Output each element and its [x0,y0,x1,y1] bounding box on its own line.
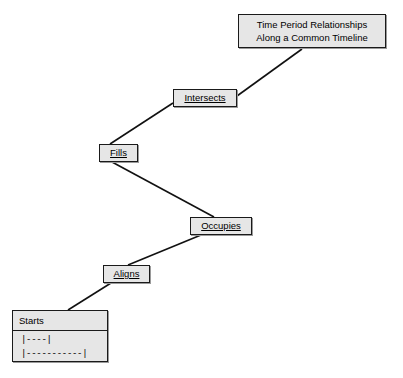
node-fills-label: Fills [110,147,127,159]
timeline-bar-short: |----| [21,335,107,346]
starts-body: |----| |-----------| [13,331,107,361]
node-intersects-label: Intersects [184,92,225,104]
node-aligns[interactable]: Aligns [103,265,150,283]
node-aligns-label: Aligns [114,268,140,280]
edge-fills-to-occupies [112,162,214,217]
node-starts-class-box[interactable]: Starts |----| |-----------| [12,310,108,362]
edge-title-to-intersects [237,49,302,96]
node-title-line1: Time Period Relationships [257,18,368,31]
node-title-line2: Along a Common Timeline [256,31,367,44]
node-intersects[interactable]: Intersects [173,89,237,107]
edge-aligns-to-starts [68,283,111,310]
node-occupies-label: Occupies [201,220,241,232]
starts-header: Starts [13,311,107,331]
diagram-canvas: Time Period Relationships Along a Common… [0,0,403,378]
node-fills[interactable]: Fills [99,144,138,162]
edge-intersects-to-fills [110,103,173,144]
timeline-bar-long: |-----------| [21,349,107,360]
edge-occupies-to-aligns [128,235,201,265]
node-title-box: Time Period Relationships Along a Common… [238,14,386,48]
starts-header-label: Starts [19,315,44,327]
node-occupies[interactable]: Occupies [190,217,252,235]
